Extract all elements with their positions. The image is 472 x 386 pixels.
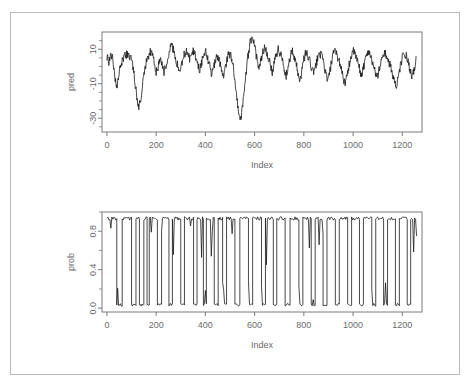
x-axis-title: Index (251, 340, 274, 350)
pred-plot-svg: 020040060080010001200-30-1010Indexpred (28, 20, 428, 175)
x-tick-label: 800 (296, 320, 311, 330)
x-tick-label: 200 (149, 320, 164, 330)
prob-plot-panel: 0200400600800100012000.00.40.8Indexprob (28, 200, 428, 362)
x-tick-label: 0 (104, 320, 109, 330)
y-tick-label: 10 (88, 44, 98, 54)
x-tick-label: 1000 (343, 320, 363, 330)
x-tick-label: 0 (104, 140, 109, 150)
x-tick-label: 600 (247, 140, 262, 150)
x-tick-label: 600 (247, 320, 262, 330)
x-tick-label: 1200 (392, 140, 412, 150)
x-tick-label: 1000 (343, 140, 363, 150)
pred-plot-panel: 020040060080010001200-30-1010Indexpred (28, 20, 428, 175)
y-tick-label: 0.0 (88, 302, 98, 315)
y-tick-label: 0.8 (88, 225, 98, 238)
plot-box (102, 32, 422, 132)
x-tick-label: 400 (198, 320, 213, 330)
y-tick-label: -10 (88, 77, 98, 90)
x-axis-title: Index (251, 160, 274, 170)
r-plot-figure: 020040060080010001200-30-1010Indexpred 0… (0, 0, 472, 386)
y-tick-label: -30 (88, 112, 98, 125)
x-tick-label: 800 (296, 140, 311, 150)
x-tick-label: 1200 (392, 320, 412, 330)
prob-plot-svg: 0200400600800100012000.00.40.8Indexprob (28, 200, 428, 362)
data-line (107, 217, 417, 306)
y-axis-title: prob (66, 253, 76, 271)
x-tick-label: 200 (149, 140, 164, 150)
y-tick-label: 0.4 (88, 263, 98, 276)
data-line (107, 37, 416, 120)
y-axis-title: pred (66, 73, 76, 91)
x-tick-label: 400 (198, 140, 213, 150)
